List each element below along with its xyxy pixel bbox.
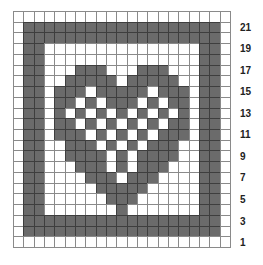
empty-stitch-cell <box>85 54 95 65</box>
filled-stitch-cell <box>54 129 64 140</box>
empty-stitch-cell <box>189 86 199 97</box>
filled-stitch-cell <box>116 97 126 108</box>
empty-stitch-cell <box>158 97 168 108</box>
empty-stitch-cell <box>106 150 116 161</box>
empty-stitch-cell <box>44 236 54 247</box>
empty-stitch-cell <box>85 43 95 54</box>
filled-stitch-cell <box>209 140 219 151</box>
filled-stitch-cell <box>168 75 178 86</box>
empty-stitch-cell <box>168 65 178 76</box>
empty-stitch-cell <box>13 97 23 108</box>
filled-stitch-cell <box>65 86 75 97</box>
filled-stitch-cell <box>116 150 126 161</box>
filled-stitch-cell <box>106 193 116 204</box>
filled-stitch-cell <box>106 215 116 226</box>
filled-stitch-cell <box>178 97 188 108</box>
row-label: 13 <box>240 108 251 119</box>
filled-stitch-cell <box>116 193 126 204</box>
filled-stitch-cell <box>199 43 209 54</box>
empty-stitch-cell <box>147 183 157 194</box>
empty-stitch-cell <box>220 193 230 204</box>
empty-stitch-cell <box>106 54 116 65</box>
filled-stitch-cell <box>168 150 178 161</box>
filled-stitch-cell <box>199 193 209 204</box>
filled-stitch-cell <box>158 226 168 237</box>
empty-stitch-cell <box>178 150 188 161</box>
filled-stitch-cell <box>147 22 157 33</box>
row-label: 19 <box>240 43 251 54</box>
empty-stitch-cell <box>189 161 199 172</box>
filled-stitch-cell <box>158 108 168 119</box>
empty-stitch-cell <box>189 193 199 204</box>
filled-stitch-cell <box>199 65 209 76</box>
filled-stitch-cell <box>199 108 209 119</box>
filled-stitch-cell <box>209 226 219 237</box>
filled-stitch-cell <box>199 172 209 183</box>
empty-stitch-cell <box>13 22 23 33</box>
empty-stitch-cell <box>44 150 54 161</box>
filled-stitch-cell <box>96 75 106 86</box>
empty-stitch-cell <box>127 43 137 54</box>
empty-stitch-cell <box>189 108 199 119</box>
empty-stitch-cell <box>54 11 64 22</box>
filled-stitch-cell <box>96 215 106 226</box>
empty-stitch-cell <box>147 193 157 204</box>
filled-stitch-cell <box>96 226 106 237</box>
empty-stitch-cell <box>13 140 23 151</box>
empty-stitch-cell <box>75 193 85 204</box>
empty-stitch-cell <box>147 108 157 119</box>
filled-stitch-cell <box>34 75 44 86</box>
filled-stitch-cell <box>96 86 106 97</box>
empty-stitch-cell <box>65 161 75 172</box>
filled-stitch-cell <box>23 129 33 140</box>
filled-stitch-cell <box>34 183 44 194</box>
filled-stitch-cell <box>54 215 64 226</box>
empty-stitch-cell <box>168 161 178 172</box>
filled-stitch-cell <box>85 97 95 108</box>
filled-stitch-cell <box>116 161 126 172</box>
filled-stitch-cell <box>23 215 33 226</box>
filled-stitch-cell <box>34 22 44 33</box>
filled-stitch-cell <box>65 129 75 140</box>
filled-stitch-cell <box>65 118 75 129</box>
filled-stitch-cell <box>116 204 126 215</box>
empty-stitch-cell <box>158 183 168 194</box>
filled-stitch-cell <box>75 129 85 140</box>
filled-stitch-cell <box>54 226 64 237</box>
filled-stitch-cell <box>178 118 188 129</box>
empty-stitch-cell <box>116 65 126 76</box>
empty-stitch-cell <box>168 193 178 204</box>
empty-stitch-cell <box>127 236 137 247</box>
empty-stitch-cell <box>85 129 95 140</box>
filled-stitch-cell <box>209 32 219 43</box>
empty-stitch-cell <box>106 129 116 140</box>
empty-stitch-cell <box>178 193 188 204</box>
filled-stitch-cell <box>127 215 137 226</box>
empty-stitch-cell <box>147 54 157 65</box>
filled-stitch-cell <box>106 97 116 108</box>
empty-stitch-cell <box>85 108 95 119</box>
row-label: 1 <box>240 237 246 248</box>
filled-stitch-cell <box>137 108 147 119</box>
empty-stitch-cell <box>220 43 230 54</box>
filled-stitch-cell <box>209 22 219 33</box>
filled-stitch-cell <box>178 32 188 43</box>
empty-stitch-cell <box>168 204 178 215</box>
filled-stitch-cell <box>85 226 95 237</box>
empty-stitch-cell <box>75 11 85 22</box>
empty-stitch-cell <box>96 97 106 108</box>
empty-stitch-cell <box>220 129 230 140</box>
filled-stitch-cell <box>209 172 219 183</box>
filled-stitch-cell <box>23 193 33 204</box>
filled-stitch-cell <box>96 129 106 140</box>
empty-stitch-cell <box>127 161 137 172</box>
empty-stitch-cell <box>13 226 23 237</box>
filled-stitch-cell <box>189 226 199 237</box>
filled-stitch-cell <box>199 183 209 194</box>
empty-stitch-cell <box>106 65 116 76</box>
empty-stitch-cell <box>13 129 23 140</box>
empty-stitch-cell <box>147 11 157 22</box>
empty-stitch-cell <box>209 236 219 247</box>
empty-stitch-cell <box>209 11 219 22</box>
empty-stitch-cell <box>127 150 137 161</box>
